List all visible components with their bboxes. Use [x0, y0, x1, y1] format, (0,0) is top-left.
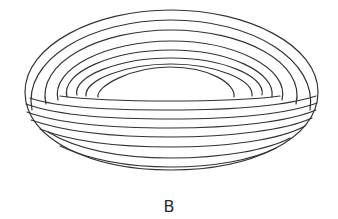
top-ring-6: [86, 64, 252, 96]
front-stripe-1: [30, 96, 316, 110]
outer-silhouette: [25, 10, 318, 170]
front-stripe-6: [48, 132, 290, 158]
inner-near-rim: [60, 96, 280, 101]
torus-drawing: [0, 0, 338, 219]
figure-label: B: [0, 197, 338, 217]
top-ring-4: [66, 50, 272, 97]
top-ring-1: [31, 20, 311, 110]
